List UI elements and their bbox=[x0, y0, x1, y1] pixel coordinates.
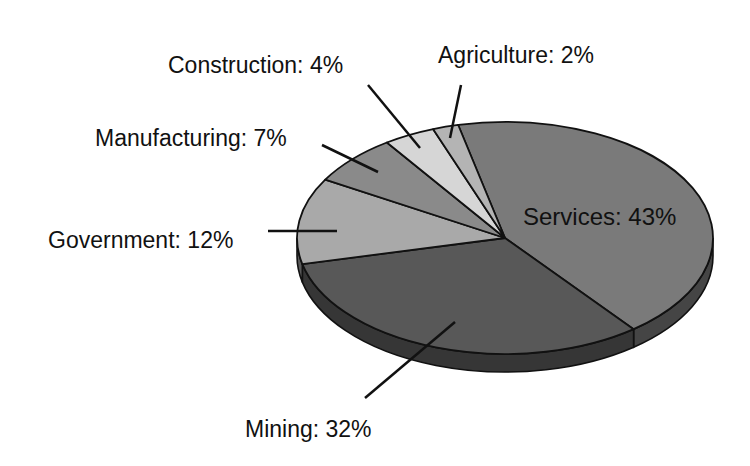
leader-construction bbox=[368, 85, 420, 148]
pie-chart: Construction: 4% Agriculture: 2% Manufac… bbox=[0, 0, 750, 466]
label-construction: Construction: 4% bbox=[168, 52, 343, 78]
label-agriculture: Agriculture: 2% bbox=[438, 42, 594, 68]
label-services: Services: 43% bbox=[523, 203, 676, 230]
label-mining: Mining: 32% bbox=[245, 416, 372, 442]
pie-body bbox=[297, 122, 713, 372]
label-manufacturing: Manufacturing: 7% bbox=[95, 125, 287, 151]
label-government: Government: 12% bbox=[48, 227, 233, 253]
